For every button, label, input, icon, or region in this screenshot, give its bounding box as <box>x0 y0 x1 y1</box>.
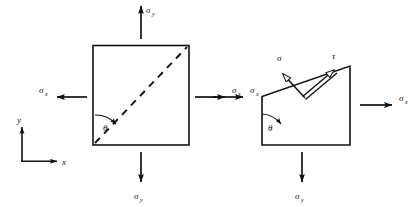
sigma-normal-label: σ <box>277 53 282 63</box>
theta-label-triangle: θ <box>268 123 273 133</box>
sigma-x-right-label-triangle: σ <box>399 93 404 103</box>
square-element-panel: θ σ y σ y σ x σ x <box>39 5 241 203</box>
y-axis-label: y <box>16 115 21 125</box>
sigma-x-left-label-square: σ <box>39 85 44 95</box>
sigma-y-bottom-subscript-triangle: y <box>300 197 304 203</box>
stress-element-figure: θ σ y σ y σ x σ x y x θ σ τ σ x σ x <box>0 0 419 207</box>
tau-shear-label: τ <box>332 51 336 61</box>
coordinate-axes: y x <box>16 115 66 167</box>
triangle-element-panel: θ σ τ σ x σ x σ y <box>213 51 408 203</box>
sigma-y-bottom-label-triangle: σ <box>295 191 300 201</box>
x-axis-label: x <box>61 157 66 167</box>
theta-label-square: θ <box>103 123 108 133</box>
sigma-y-bottom-label: σ <box>134 191 139 201</box>
sigma-x-left-label-triangle: σ <box>250 85 255 95</box>
sigma-x-right-subscript-triangle: x <box>404 99 408 105</box>
square-diagonal-dashed <box>95 47 187 143</box>
figure-canvas: θ σ y σ y σ x σ x y x θ σ τ σ x σ x <box>0 0 419 207</box>
sigma-normal-arrow <box>283 74 305 98</box>
sigma-y-top-subscript: y <box>151 11 155 17</box>
sigma-x-right-subscript-square: x <box>237 91 241 97</box>
sigma-x-left-subscript-square: x <box>44 91 48 97</box>
tau-shear-arrow <box>303 70 334 96</box>
sigma-x-right-label-square: σ <box>232 85 237 95</box>
sigma-y-top-label: σ <box>146 5 151 15</box>
tau-shear-line-lower <box>306 73 338 100</box>
sigma-x-left-subscript-triangle: x <box>255 91 259 97</box>
sigma-y-bottom-subscript: y <box>139 197 143 203</box>
triangle-outline <box>262 66 350 145</box>
